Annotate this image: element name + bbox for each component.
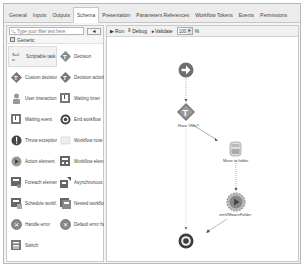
palette-item-asynchronous-workflow[interactable]: Asynchronous ...: [57, 172, 104, 193]
throw-exception-icon: [11, 135, 22, 146]
tab-bar: General Inputs Outputs Schema Presentati…: [4, 4, 300, 23]
scriptable-task-node-icon[interactable]: [228, 141, 244, 157]
svg-text:T: T: [14, 75, 18, 81]
workflow-canvas[interactable]: T Have VMs? Move to folder vimVMwareFold…: [107, 37, 298, 261]
tab-outputs[interactable]: Outputs: [49, 8, 73, 22]
zoom-select[interactable]: 100 ▼: [177, 27, 193, 35]
palette-item-handle-error[interactable]: ✕ Handle error: [8, 214, 57, 235]
palette-item-throw-exception[interactable]: Throw exception: [8, 130, 57, 151]
start-node-icon[interactable]: [178, 62, 194, 78]
asynchronous-workflow-icon: [60, 177, 71, 188]
workflow-editor: General Inputs Outputs Schema Presentati…: [3, 3, 301, 264]
palette-item-schedule-workflow[interactable]: Schedule workf...: [8, 193, 57, 214]
tab-schema[interactable]: Schema: [73, 7, 99, 23]
svg-text:T: T: [63, 54, 67, 60]
validate-icon: ●: [151, 28, 154, 34]
action-node-label: vimVMwareFolder: [219, 212, 251, 217]
palette-item-decision-activity[interactable]: T Decision activity: [57, 67, 104, 88]
decision-node-icon[interactable]: T: [177, 103, 195, 121]
search-icon: 🔍︎: [11, 29, 16, 34]
svg-text:a:: a:: [12, 57, 15, 62]
palette-item-foreach-element[interactable]: Foreach element: [8, 172, 57, 193]
waiting-event-icon: [11, 114, 22, 125]
clear-filter-button[interactable]: ◄: [87, 28, 101, 35]
palette-item-action-element[interactable]: Action element: [8, 151, 57, 172]
group-label: Generic: [17, 37, 35, 43]
palette-item-end-workflow[interactable]: End workflow: [57, 109, 104, 130]
end-workflow-icon: [60, 114, 71, 125]
action-node-icon[interactable]: [226, 192, 246, 212]
schema-panel: ▶ Run ⁑ Debug ● Validate 100 ▼ %: [106, 25, 299, 262]
custom-decision-icon: T: [11, 72, 22, 83]
task-node-label: Move to folder: [223, 158, 248, 163]
tab-inputs[interactable]: Inputs: [30, 8, 50, 22]
palette-item-nested-workflow[interactable]: Nested workflow: [57, 193, 104, 214]
palette-search-input[interactable]: [17, 29, 83, 34]
handle-error-icon: ✕: [11, 219, 22, 230]
palette-panel: 🔍︎ ◄ Generic S=1a: Scriptable task T Dec…: [6, 25, 104, 262]
validate-button[interactable]: ● Validate: [151, 28, 173, 34]
action-element-icon: [11, 156, 22, 167]
palette-item-user-interaction[interactable]: User interaction: [8, 88, 57, 109]
svg-text:✕: ✕: [14, 222, 19, 228]
foreach-element-icon: [11, 177, 22, 188]
palette-item-workflow-element[interactable]: Workflow elem...: [57, 151, 104, 172]
palette-item-switch[interactable]: Switch: [8, 235, 57, 256]
palette-item-workflow-note[interactable]: Workflow note: [57, 130, 104, 151]
debug-button[interactable]: ⁑ Debug: [128, 28, 147, 34]
palette-group-generic[interactable]: Generic: [7, 36, 103, 44]
default-error-handler-icon: ✕: [60, 219, 71, 230]
schema-toolbar: ▶ Run ⁑ Debug ● Validate 100 ▼ %: [107, 26, 298, 37]
palette-grid: S=1a: Scriptable task T Decision T Custo…: [7, 44, 103, 258]
palette-item-waiting-event[interactable]: Waiting event: [8, 109, 57, 130]
svg-text:T: T: [183, 108, 189, 118]
connectors: [107, 37, 298, 261]
tab-permissions[interactable]: Permissions: [257, 8, 290, 22]
decision-icon: T: [60, 51, 71, 62]
scriptable-task-icon: S=1a:: [12, 51, 23, 62]
tab-general[interactable]: General: [6, 8, 30, 22]
tab-presentation[interactable]: Presentation: [99, 8, 133, 22]
user-interaction-icon: [11, 93, 22, 104]
svg-text:✕: ✕: [63, 222, 68, 228]
palette-item-decision[interactable]: T Decision: [57, 46, 104, 67]
nested-workflow-icon: [60, 198, 71, 209]
decision-node-label: Have VMs?: [178, 123, 199, 128]
end-node-icon[interactable]: [178, 233, 194, 249]
svg-text:T: T: [63, 75, 67, 81]
workflow-element-icon: [60, 156, 71, 167]
palette-item-default-error-handler[interactable]: ✕ Default error ha...: [57, 214, 104, 235]
debug-icon: ⁑: [128, 28, 131, 34]
palette-search-box[interactable]: 🔍︎: [9, 27, 84, 35]
tab-workflow-tokens[interactable]: Workflow Tokens: [192, 8, 236, 22]
palette-item-waiting-timer[interactable]: Waiting timer: [57, 88, 104, 109]
palette-item-scriptable-task[interactable]: S=1a: Scriptable task: [8, 46, 57, 67]
palette-search-row: 🔍︎ ◄: [7, 26, 103, 36]
waiting-timer-icon: [60, 93, 71, 104]
tab-parameters-references[interactable]: Parameters References: [133, 8, 192, 22]
run-icon: ▶: [110, 28, 114, 34]
group-icon: [10, 37, 15, 42]
decision-activity-icon: T: [60, 72, 71, 83]
chevron-down-icon: ▼: [187, 28, 192, 34]
workflow-note-icon: [60, 135, 71, 146]
zoom-unit: %: [195, 28, 199, 34]
tab-events[interactable]: Events: [236, 8, 257, 22]
switch-icon: [11, 240, 22, 251]
palette-item-custom-decision[interactable]: T Custom decision: [8, 67, 57, 88]
run-button[interactable]: ▶ Run: [110, 28, 124, 34]
schedule-workflow-icon: [11, 198, 22, 209]
